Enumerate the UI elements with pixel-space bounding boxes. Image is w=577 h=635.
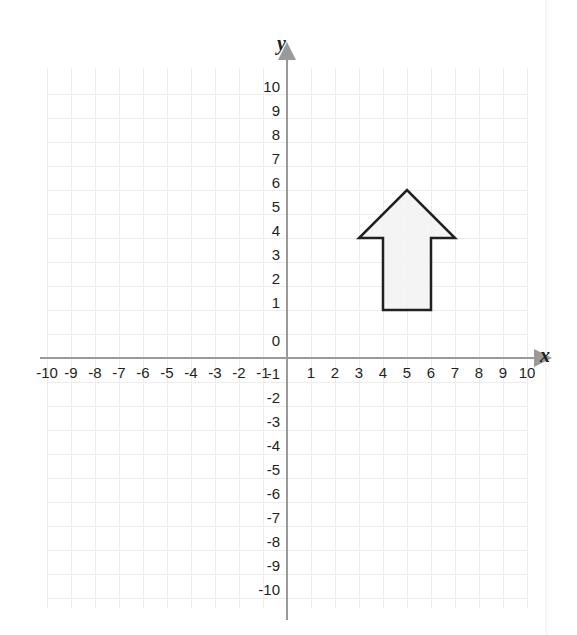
y-tick-label--9: -9 <box>228 558 280 573</box>
y-tick-label-3: 3 <box>236 247 280 262</box>
y-tick-label-4: 4 <box>236 223 280 238</box>
y-tick-label-6: 6 <box>236 175 280 190</box>
y-tick-label--10: -10 <box>224 582 280 597</box>
y-tick-label--8: -8 <box>228 534 280 549</box>
y-tick-label-10: 10 <box>236 79 280 94</box>
y-tick-label-1: 1 <box>236 295 280 310</box>
figure-page: -10 -9 -8 -7 -6 -5 -4 -3 -2 -1 1 2 3 4 5… <box>0 0 577 635</box>
y-tick-label-9: 9 <box>236 103 280 118</box>
y-tick-label-5: 5 <box>236 199 280 214</box>
y-tick-label--4: -4 <box>228 438 280 453</box>
arrow-polygon <box>359 190 455 310</box>
y-tick-label--5: -5 <box>228 462 280 477</box>
y-tick-label--3: -3 <box>228 414 280 429</box>
y-axis-label: y <box>277 33 286 53</box>
x-tick-label-10: 10 <box>509 365 545 380</box>
y-tick-label-0: 0 <box>236 333 280 348</box>
x-axis-label: x <box>540 345 550 365</box>
y-tick-label-2: 2 <box>236 271 280 286</box>
y-tick-label--7: -7 <box>228 510 280 525</box>
y-tick-label--1: -1 <box>228 366 280 381</box>
coordinate-plane-svg <box>0 0 577 635</box>
y-tick-label--6: -6 <box>228 486 280 501</box>
y-tick-label--2: -2 <box>228 390 280 405</box>
y-tick-label-8: 8 <box>236 127 280 142</box>
y-tick-label-7: 7 <box>236 151 280 166</box>
